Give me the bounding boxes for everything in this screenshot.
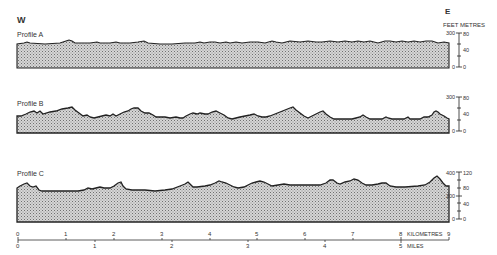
profile-c: Profile C [17,170,449,222]
km-label-2: 2 [112,231,116,237]
km-label-3: 3 [160,231,164,237]
profile-c-metres-80: 80 [463,185,469,191]
profile-c-terrain [17,176,449,222]
km-label-6: 6 [303,231,307,237]
west-label: W [17,15,26,25]
km-label-4: 4 [208,231,212,237]
km-label-1: 1 [64,231,68,237]
profile-a-feet-top: 300 [446,30,455,36]
east-label: E [445,7,451,16]
profile-b-metres-80: 80 [463,95,469,101]
km-label-5: 5 [255,231,259,237]
mile-unit-label: MILES [407,243,424,249]
profile-b-terrain [17,107,449,133]
profile-a-metres-0: 0 [463,64,466,70]
profile-c-feet-200: 200 [446,193,455,199]
km-label-7: 7 [351,231,355,237]
metres-unit-label: METRES [460,22,485,28]
profile-b-vertical-scale [456,97,462,131]
profile-a-metres-40: 40 [463,47,469,53]
feet-unit-label: FEET [443,22,459,28]
km-label-9: 9 [447,231,451,237]
mile-label-4: 4 [323,243,327,249]
profile-a-terrain [17,40,449,68]
profile-a-feet-zero: 0 [452,64,455,70]
profile-c-feet-400: 400 [446,170,455,176]
profile-c-metres-0: 0 [463,216,466,222]
km-tick-labels: 0 1 2 3 4 5 6 7 8 KILOMETRES 9 [16,231,451,237]
mile-label-0: 0 [16,243,20,249]
profile-a: Profile A [17,31,449,68]
profile-b-feet-top: 300 [446,94,455,100]
profile-a-vertical-scale [456,33,462,67]
km-label-8: 8 [399,231,403,237]
profile-c-label: Profile C [17,170,44,177]
profile-c-feet-0: 0 [452,216,455,222]
profile-a-label: Profile A [17,31,43,38]
profile-b-feet-zero: 0 [452,128,455,134]
profile-b-metres-0: 0 [463,128,466,134]
mile-label-2: 2 [170,243,174,249]
mile-label-5: 5 [399,243,403,249]
profile-b-metres-40: 40 [463,111,469,117]
profile-c-vertical-scale [456,172,462,219]
profile-b: Profile B [17,100,449,133]
profile-a-metres-80: 80 [463,31,469,37]
km-unit-label: KILOMETRES [407,231,443,237]
mile-label-3: 3 [246,243,250,249]
km-label-0: 0 [16,231,20,237]
profile-c-metres-120: 120 [463,170,472,176]
scale-bar [18,237,449,243]
mile-label-1: 1 [93,243,97,249]
profile-c-metres-40: 40 [463,201,469,207]
mile-tick-labels: 0 1 2 3 4 5 MILES [16,243,424,249]
terrain-profiles-diagram: W E FEET METRES Profile A 300 0 80 40 0 … [0,0,497,255]
profile-b-label: Profile B [17,100,44,107]
